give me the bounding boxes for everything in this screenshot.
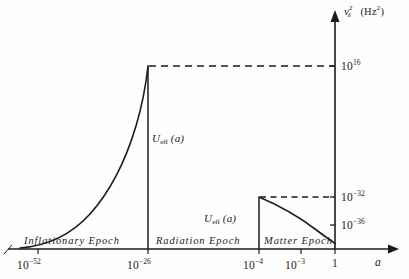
x-tick-label-1e-52: 10−52 — [17, 258, 41, 271]
epoch-label-matter: Matter Epoch — [264, 236, 333, 247]
epoch-label-inflationary: Inflationary Epoch — [24, 236, 120, 247]
annotation-ueff-inflation-symbol: U — [152, 132, 160, 144]
y-tick-label-1e16: 1016 — [341, 59, 361, 72]
x-tick-1e-3-exp: −3 — [297, 257, 305, 266]
y-tick-1e16-base: 10 — [341, 60, 353, 72]
y-axis-title: ν2δ (Hz2) — [344, 5, 384, 19]
y-axis-unit-close: ) — [380, 6, 384, 17]
epoch-label-radiation: Radiation Epoch — [156, 236, 240, 247]
curve-inflationary-ueff — [20, 66, 148, 248]
x-tick-1e-52-exp: −52 — [29, 257, 41, 266]
y-tick-1e-32-base: 10 — [341, 191, 353, 203]
y-tick-1e-36-base: 10 — [341, 219, 353, 231]
x-tick-label-1e-3: 10−3 — [285, 258, 305, 271]
annotation-ueff-matter-sub: eff — [212, 218, 220, 226]
x-tick-1-base: 1 — [332, 257, 338, 269]
x-tick-1e-26-exp: −26 — [139, 257, 151, 266]
y-axis-symbol-sub: δ — [347, 11, 350, 19]
y-tick-1e-32-exp: −32 — [353, 189, 365, 198]
y-axis-unit-open: (Hz — [360, 6, 376, 17]
annotation-ueff-inflation: Ueff (a) — [152, 133, 184, 146]
y-tick-label-1e-32: 10−32 — [341, 190, 365, 203]
x-tick-1e-3-base: 10 — [285, 259, 297, 271]
y-tick-1e16-exp: 16 — [353, 58, 361, 67]
annotation-ueff-inflation-arg: (a) — [168, 132, 184, 144]
x-tick-label-1e-26: 10−26 — [127, 258, 151, 271]
x-tick-1e-52-base: 10 — [17, 259, 29, 271]
annotation-ueff-matter: Ueff (a) — [204, 213, 236, 226]
x-tick-marks — [38, 249, 335, 254]
annotation-ueff-matter-symbol: U — [204, 212, 212, 224]
x-tick-label-1: 1 — [332, 258, 338, 270]
y-axis-line — [331, 10, 340, 249]
y-tick-label-1e-36: 10−36 — [341, 218, 365, 231]
x-tick-1e-26-base: 10 — [127, 259, 139, 271]
x-tick-1e-4-exp: −4 — [255, 257, 263, 266]
annotation-ueff-matter-arg: (a) — [220, 212, 236, 224]
annotation-ueff-inflation-sub: eff — [160, 138, 168, 146]
figure-canvas: ν2δ (Hz2) 1016 10−32 10−36 10−52 10−26 1… — [0, 0, 409, 279]
y-tick-1e-36-exp: −36 — [353, 217, 365, 226]
x-axis-title: a — [375, 257, 381, 269]
x-tick-label-1e-4: 10−4 — [243, 258, 263, 271]
x-tick-1e-4-base: 10 — [243, 259, 255, 271]
